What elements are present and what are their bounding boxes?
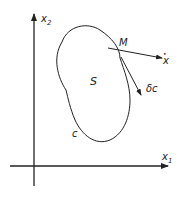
- point-label-m: M: [119, 37, 128, 48]
- diagram-canvas: x2 x1 S c M x • δc: [0, 0, 183, 198]
- velocity-vector: [108, 48, 162, 58]
- region-label-s: S: [90, 75, 97, 88]
- x-axis-label: x1: [161, 151, 172, 165]
- velocity-dot: •: [163, 50, 167, 57]
- y-axis-label: x2: [40, 13, 52, 27]
- variation-label: δc: [146, 83, 158, 94]
- variation-vector: [121, 57, 141, 95]
- curve-label-c: c: [72, 128, 78, 139]
